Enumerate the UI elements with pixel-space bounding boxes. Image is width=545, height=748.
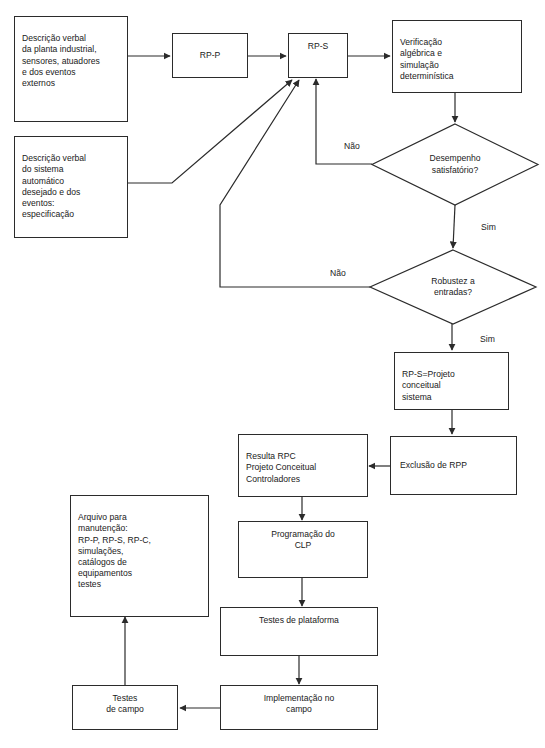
edge-label-nao-robustez: Não (330, 268, 346, 278)
node-projeto-conceitual-sistema-label: RP-S=Projeto conceitual sistema (402, 369, 455, 401)
node-exclusao-rpp: Exclusão de RPP (390, 436, 517, 495)
node-programacao-clp-label: Programação do CLP (271, 529, 335, 551)
edge-label-sim-desempenho: Sim (481, 222, 496, 232)
node-testes-plataforma-label: Testes de plataforma (259, 615, 339, 626)
node-verificacao: Verificação algébrica e simulação determ… (392, 20, 522, 93)
decision-robustez: Robustez a entradas? (370, 250, 536, 324)
node-implementacao-campo: Implementação no campo (220, 685, 378, 730)
edge-label-nao-desempenho: Não (344, 141, 360, 151)
edge-robustez-nao-to-rps (220, 80, 370, 287)
decision-desempenho-label: Desempenho satisfatório? (372, 124, 538, 205)
node-rp-s: RP-S (288, 33, 348, 78)
node-testes-plataforma: Testes de plataforma (220, 607, 378, 656)
node-descricao-planta-label: Descrição verbal da planta industrial, s… (22, 33, 100, 88)
node-programacao-clp: Programação do CLP (238, 521, 368, 578)
node-exclusao-rpp-label: Exclusão de RPP (400, 460, 467, 471)
flowchart-diagram: Descrição verbal da planta industrial, s… (0, 0, 545, 748)
node-descricao-planta: Descrição verbal da planta industrial, s… (14, 16, 128, 122)
edge-label-sim-robustez: Sim (480, 334, 495, 344)
node-verificacao-label: Verificação algébrica e simulação determ… (400, 37, 454, 81)
node-rp-p: RP-P (172, 33, 248, 78)
node-testes-campo-label: Testes de campo (106, 693, 144, 715)
node-resulta-rpc-label: Resulta RPC Projeto Conceitual Controlad… (246, 451, 316, 483)
node-arquivo-manutencao-label: Arquivo para manutenção: RP-P, RP-S, RP-… (78, 512, 151, 589)
edge-especificacao-to-rps (128, 80, 292, 183)
node-projeto-conceitual-sistema: RP-S=Projeto conceitual sistema (394, 352, 509, 410)
node-arquivo-manutencao: Arquivo para manutenção: RP-P, RP-S, RP-… (70, 495, 209, 617)
edge-desempenho-sim-to-robustez (453, 205, 455, 248)
node-implementacao-campo-label: Implementação no campo (264, 693, 335, 715)
node-rp-s-label: RP-S (308, 41, 329, 52)
node-descricao-especificacao: Descrição verbal do sistema automático d… (14, 136, 128, 238)
node-descricao-especificacao-label: Descrição verbal do sistema automático d… (22, 153, 86, 219)
node-testes-campo: Testes de campo (72, 685, 178, 730)
edge-desempenho-nao-to-rps (316, 79, 372, 164)
node-rp-p-label: RP-P (200, 50, 221, 61)
decision-robustez-label: Robustez a entradas? (370, 250, 536, 324)
decision-desempenho: Desempenho satisfatório? (372, 124, 538, 205)
node-resulta-rpc: Resulta RPC Projeto Conceitual Controlad… (238, 434, 368, 497)
